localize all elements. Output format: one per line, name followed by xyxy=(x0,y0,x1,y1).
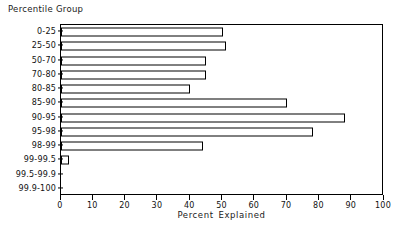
x-tick-label: 20 xyxy=(119,201,130,210)
x-tick-label: 40 xyxy=(184,201,195,210)
x-tick-label: 60 xyxy=(249,201,260,210)
y-axis-title: Percentile Group xyxy=(8,4,83,14)
y-tick-label: 80-85 xyxy=(32,84,56,93)
x-tick-mark xyxy=(286,195,287,200)
bar-row xyxy=(61,125,382,139)
bar xyxy=(61,127,313,136)
y-tick-label: 0-25 xyxy=(37,27,56,36)
y-tick-mark xyxy=(58,59,63,60)
y-tick-mark xyxy=(58,31,63,32)
y-tick-mark xyxy=(58,173,63,174)
x-tick-mark xyxy=(350,195,351,200)
y-tick-label: 99.5-99.9 xyxy=(16,169,56,178)
x-tick-label: 100 xyxy=(375,201,391,210)
bar-row xyxy=(61,39,382,53)
x-tick-label: 0 xyxy=(57,201,62,210)
x-tick-mark xyxy=(92,195,93,200)
bar xyxy=(61,85,190,94)
bar-row xyxy=(61,25,382,39)
x-tick-mark xyxy=(189,195,190,200)
x-tick-mark xyxy=(318,195,319,200)
y-tick-mark xyxy=(58,145,63,146)
bar-row xyxy=(61,82,382,96)
bar-row xyxy=(61,139,382,153)
bar-row xyxy=(61,68,382,82)
bar xyxy=(61,70,206,79)
x-tick-mark xyxy=(221,195,222,200)
y-tick-mark xyxy=(58,187,63,188)
bar xyxy=(61,113,345,122)
bar-row xyxy=(61,168,382,182)
x-tick-mark xyxy=(253,195,254,200)
bar xyxy=(61,99,287,108)
y-tick-label: 25-50 xyxy=(32,41,56,50)
bar-row xyxy=(61,111,382,125)
y-tick-mark xyxy=(58,102,63,103)
y-tick-label: 98-99 xyxy=(32,141,56,150)
x-tick-label: 10 xyxy=(87,201,98,210)
bar xyxy=(61,156,69,165)
y-tick-mark xyxy=(58,130,63,131)
bar-row xyxy=(61,153,382,167)
x-tick-mark xyxy=(60,195,61,200)
bar xyxy=(61,142,203,151)
bar xyxy=(61,28,223,37)
x-tick-mark xyxy=(383,195,384,200)
x-tick-label: 80 xyxy=(313,201,324,210)
y-tick-mark xyxy=(58,73,63,74)
y-tick-mark xyxy=(58,116,63,117)
bar-row xyxy=(61,54,382,68)
bar xyxy=(61,42,226,51)
y-tick-label: 90-95 xyxy=(32,112,56,121)
y-tick-mark xyxy=(58,88,63,89)
bar-row xyxy=(61,182,382,196)
chart-figure: Percentile Group 0-2525-5050-7070-8080-8… xyxy=(0,0,403,243)
bar-row xyxy=(61,96,382,110)
y-tick-mark xyxy=(58,159,63,160)
x-tick-label: 90 xyxy=(345,201,356,210)
y-tick-label: 85-90 xyxy=(32,98,56,107)
x-tick-label: 50 xyxy=(216,201,227,210)
x-tick-mark xyxy=(156,195,157,200)
y-tick-label: 99.9-100 xyxy=(18,183,56,192)
x-tick-label: 30 xyxy=(152,201,163,210)
bar xyxy=(61,56,206,65)
x-tick-mark xyxy=(124,195,125,200)
x-axis-title: Percent Explained xyxy=(60,210,383,220)
y-tick-mark xyxy=(58,45,63,46)
x-tick-label: 70 xyxy=(281,201,292,210)
y-tick-label: 70-80 xyxy=(32,69,56,78)
plot-area xyxy=(60,24,383,195)
y-tick-label: 95-98 xyxy=(32,126,56,135)
y-tick-label: 99-99.5 xyxy=(24,155,56,164)
y-tick-label: 50-70 xyxy=(32,55,56,64)
